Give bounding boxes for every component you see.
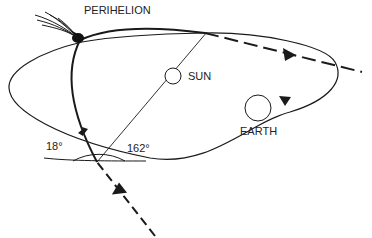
arrow-icon-outgoing — [283, 48, 296, 61]
comet-path-outgoing — [205, 33, 362, 72]
sun-icon — [165, 68, 181, 84]
sun-radial-line — [97, 32, 207, 162]
earth-label: EARTH — [240, 125, 277, 137]
angle-162-label: 162° — [127, 142, 150, 154]
earth-icon — [245, 95, 271, 121]
comet-orbit-diagram — [0, 0, 372, 238]
sun-label: SUN — [188, 70, 211, 82]
comet-path-incoming — [97, 162, 155, 236]
perihelion-label: PERIHELION — [84, 4, 151, 16]
comet-icon — [35, 12, 84, 43]
angle-18-label: 18° — [46, 140, 63, 152]
arrow-icon-earth-orbit — [279, 96, 291, 106]
